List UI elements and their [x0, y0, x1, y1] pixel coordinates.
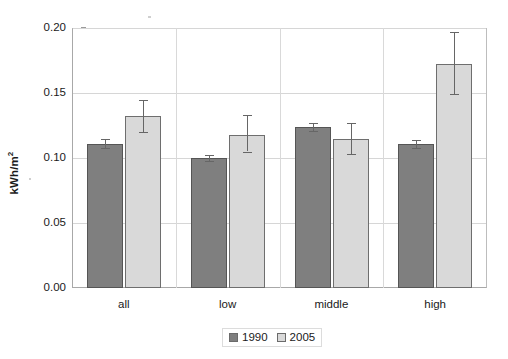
error-bar-cap-upper — [139, 100, 148, 101]
error-bar-line — [143, 100, 144, 133]
x-category-label: high — [383, 298, 487, 310]
bar-1990-low — [191, 158, 227, 288]
error-bar-cap-lower — [101, 148, 110, 149]
error-bar-cap-upper — [450, 32, 459, 33]
bar-chart: kWh/m2 0.000.050.100.150.20 19902005 all… — [0, 0, 508, 359]
legend-entry-1990[interactable]: 1990 — [229, 331, 268, 343]
error-bar-cap-lower — [205, 161, 214, 162]
bar-1990-all — [87, 144, 123, 288]
y-tick-label: 0.00 — [20, 282, 66, 294]
error-bar-cap-upper — [101, 139, 110, 140]
error-bar-cap-upper — [412, 140, 421, 141]
scan-speck-2 — [29, 178, 31, 180]
x-category-label: low — [176, 298, 280, 310]
y-axis-ticks: 0.000.050.100.150.20 — [14, 0, 66, 359]
error-bar-cap-upper — [309, 123, 318, 124]
y-tick-label: 0.15 — [20, 87, 66, 99]
error-bar-line — [105, 139, 106, 148]
bar-2005-middle — [333, 139, 369, 289]
bars-layer — [72, 28, 487, 288]
legend-swatch-icon — [277, 333, 286, 342]
bar-group — [72, 28, 176, 288]
error-bar-cap-upper — [347, 123, 356, 124]
bar-group — [280, 28, 384, 288]
error-bar-line — [454, 32, 455, 94]
error-bar-cap-lower — [139, 132, 148, 133]
error-bar-cap-lower — [309, 131, 318, 132]
y-tick-label: 0.10 — [20, 152, 66, 164]
error-bar-cap-lower — [450, 94, 459, 95]
legend-swatch-icon — [229, 333, 238, 342]
bar-2005-low — [229, 135, 265, 288]
scan-speck — [148, 16, 151, 18]
bar-2005-high — [436, 64, 472, 288]
bar-2005-all — [125, 116, 161, 288]
legend: 19902005 — [222, 328, 322, 347]
y-tick-label: 0.20 — [20, 22, 66, 34]
legend-entry-2005[interactable]: 2005 — [277, 331, 316, 343]
error-bar-cap-lower — [243, 152, 252, 153]
x-category-label: all — [72, 298, 176, 310]
bar-group — [176, 28, 280, 288]
error-bar-cap-lower — [347, 154, 356, 155]
bar-1990-high — [398, 144, 434, 288]
legend-label: 2005 — [290, 331, 316, 343]
error-bar-line — [416, 140, 417, 148]
error-bar-line — [313, 123, 314, 131]
error-bar-line — [247, 115, 248, 151]
y-tick-label: 0.05 — [20, 217, 66, 229]
legend-label: 1990 — [242, 331, 268, 343]
x-category-label: middle — [280, 298, 384, 310]
error-bar-cap-upper — [243, 115, 252, 116]
error-bar-line — [351, 123, 352, 154]
bar-1990-middle — [295, 127, 331, 288]
error-bar-cap-lower — [412, 148, 421, 149]
error-bar-cap-upper — [205, 155, 214, 156]
bar-group — [383, 28, 487, 288]
